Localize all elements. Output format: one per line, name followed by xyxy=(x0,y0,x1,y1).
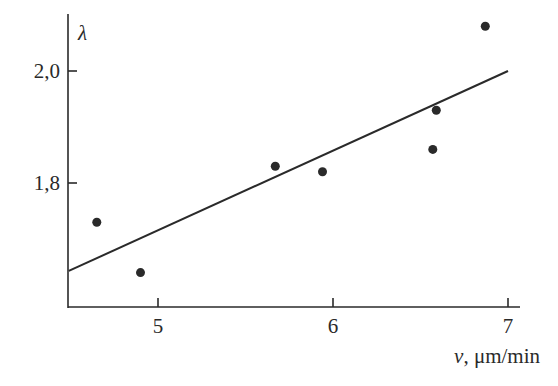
regression-line xyxy=(69,71,508,271)
data-point xyxy=(136,268,145,277)
x-tick-label: 6 xyxy=(328,314,339,338)
data-point xyxy=(271,162,280,171)
ticks xyxy=(68,71,508,307)
y-tick-label: 2,0 xyxy=(34,59,60,83)
x-tick-label: 7 xyxy=(503,314,514,338)
y-axis-label: λ xyxy=(77,21,87,45)
y-tick-label: 1,8 xyxy=(34,171,60,195)
scatter-chart: 5671,82,0 λ v, μm/min xyxy=(0,0,558,386)
data-points xyxy=(92,22,490,277)
data-point xyxy=(428,145,437,154)
data-point xyxy=(432,106,441,115)
x-tick-label: 5 xyxy=(153,314,164,338)
fit-line xyxy=(69,71,508,271)
data-point xyxy=(318,167,327,176)
axes xyxy=(68,14,520,308)
x-axis-label: v, μm/min xyxy=(454,344,540,368)
data-point xyxy=(92,218,101,227)
x-axis-label-unit: , μm/min xyxy=(463,344,540,368)
data-point xyxy=(481,22,490,31)
